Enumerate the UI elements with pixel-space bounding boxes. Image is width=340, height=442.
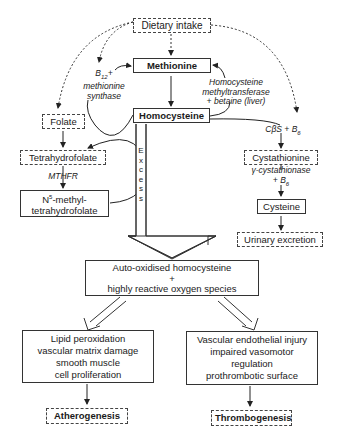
gamma-line1: γ-cystathionase [251, 165, 310, 175]
excess-letter: E [137, 146, 145, 156]
tetrahydrofolate-node: Tetrahydrofolate [20, 150, 106, 165]
right-effect: regulation [190, 358, 314, 370]
hmt-line3: + betaine (liver) [207, 96, 266, 106]
right-effects-node: Vascular endothelial injury impaired vas… [186, 331, 318, 385]
n5-line1: -methyl- [52, 194, 86, 205]
b12-sub: 12 [101, 74, 108, 80]
excess-label: E x c e s s [137, 146, 145, 203]
excess-letter: s [137, 194, 145, 204]
excess-letter: x [137, 156, 145, 166]
left-effect: vascular matrix damage [26, 345, 150, 357]
cysteine-node: Cysteine [257, 199, 306, 214]
cbs-text: CβS + B [265, 124, 297, 134]
excess-letter: e [137, 175, 145, 185]
methionine-node: Methionine [133, 58, 211, 73]
excess-letter: c [137, 165, 145, 175]
excess-letter: s [137, 184, 145, 194]
folate-node: Folate [42, 114, 85, 129]
b12-suffix: + [108, 68, 113, 78]
dotted-arrow-to-b12 [99, 22, 133, 62]
urinary-excretion-node: Urinary excretion [237, 232, 323, 247]
hollow-arrow-to-right-effects [218, 297, 258, 330]
right-effect: Vascular endothelial injury [190, 334, 314, 346]
ms-line2: synthase [87, 91, 121, 101]
auto-line1: Auto-oxidised homocysteine [113, 262, 232, 273]
cbs-sub: 6 [297, 130, 300, 136]
thrombogenesis-node: Thrombogenesis [211, 410, 292, 426]
ms-line1: methionine [83, 81, 125, 91]
hmt-label: Homocysteine methyltransferase + betaine… [196, 78, 276, 107]
homocysteine-node: Homocysteine [133, 108, 210, 123]
gamma-line2: + B [273, 175, 286, 185]
n5-methyl-tetrahydrofolate-node: N5-methyl- tetrahydrofolate [20, 190, 109, 217]
cbs-label: CβS + B6 [258, 125, 308, 138]
left-effect: cell proliferation [26, 369, 150, 381]
left-effects-node: Lipid peroxidation vascular matrix damag… [22, 330, 154, 383]
cycle-homocysteine-to-b12 [87, 100, 133, 135]
atherogenesis-node: Atherogenesis [46, 408, 128, 424]
auto-line2: + [169, 273, 175, 284]
auto-line3: highly reactive oxygen species [108, 283, 237, 294]
hmt-line2: methyltransferase [202, 87, 270, 97]
dietary-intake-node: Dietary intake [133, 18, 211, 33]
left-effect: smooth muscle [26, 357, 150, 369]
auto-oxidised-node: Auto-oxidised homocysteine + highly reac… [85, 260, 259, 296]
right-effect: prothrombotic surface [190, 370, 314, 382]
n5-line2: tetrahydrofolate [31, 205, 97, 216]
left-effect: Lipid peroxidation [26, 333, 150, 345]
hollow-arrow-to-left-effects [84, 297, 126, 330]
hmt-line1: Homocysteine [209, 77, 263, 87]
cystathionine-node: Cystathionine [244, 150, 318, 165]
mthfr-label: MTHFR [38, 172, 88, 182]
right-effect: impaired vasomotor [190, 346, 314, 358]
gamma-cystathionase-label: γ-cystathionase + B6 [238, 166, 324, 189]
gamma-sub: 6 [286, 180, 289, 186]
b12-methionine-synthase-label: B12+ methionine synthase [74, 69, 134, 101]
